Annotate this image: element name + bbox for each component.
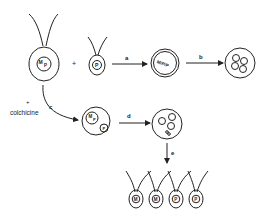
flagellum-left	[88, 37, 96, 55]
nucleus-label-p: P	[93, 117, 96, 122]
flagellum-left	[29, 14, 43, 46]
parent-cell-large: M P	[29, 14, 59, 81]
progeny-cell-3: P	[168, 171, 191, 208]
colchicine-label: colchicine	[10, 109, 39, 116]
nucleus-label-p: P	[95, 62, 99, 68]
parent-cell-small: P	[88, 37, 107, 75]
progeny-row: M M P P	[126, 171, 208, 208]
spore-cell-four	[225, 48, 255, 78]
svg-text:P: P	[194, 197, 197, 202]
arrow-c	[43, 85, 78, 120]
colchicine-fused-cell: M P P	[82, 107, 110, 135]
diagram-canvas: M P + P a M/P/P b c + colchicine M	[0, 0, 264, 217]
nucleus-label-p: P	[44, 63, 47, 68]
spore-cell-multi	[152, 109, 182, 139]
arrow-b-label: b	[199, 54, 203, 60]
plus-sign: +	[72, 60, 76, 67]
fused-cell: M/P/P	[151, 49, 179, 77]
progeny-cell-1: M	[126, 171, 151, 208]
nucleus-label-m: M	[39, 59, 43, 65]
flagellum-right	[98, 37, 107, 55]
fused-cell-label: M/P/P	[156, 59, 169, 68]
svg-text:M: M	[134, 197, 138, 202]
nucleus-label-p2: P	[103, 126, 106, 131]
progeny-cell-4: P	[188, 171, 208, 208]
flagellum-right	[46, 14, 58, 46]
arrow-e-label: e	[171, 150, 175, 156]
progeny-cell-2: M	[148, 171, 171, 208]
svg-text:M: M	[154, 197, 158, 202]
arrow-d-label: d	[127, 113, 131, 119]
svg-text:P: P	[174, 197, 177, 202]
colchicine-plus: +	[26, 99, 30, 105]
arrow-a-label: a	[125, 55, 129, 61]
nucleus-label-m: M	[89, 114, 93, 119]
